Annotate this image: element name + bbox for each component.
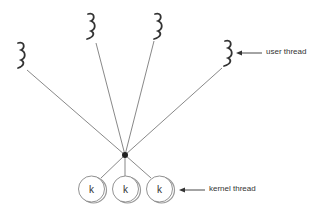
threading-diagram: k k k: [0, 0, 328, 217]
junction-dot: [122, 152, 128, 158]
connection-line-u4: [125, 68, 222, 155]
kernel-threads: k k k: [79, 176, 175, 203]
user-thread-connections: [27, 41, 222, 155]
kernel-thread-arrow-icon: [179, 188, 205, 193]
kernel-thread-label-text: kernel thread: [209, 184, 256, 193]
kernel-thread-k3: k: [147, 176, 175, 203]
user-thread-label: user thread: [266, 47, 306, 56]
kernel-thread-k1: k: [79, 176, 107, 203]
user-thread-squiggle-icon: [224, 41, 232, 66]
kernel-connections: [101, 155, 151, 178]
kernel-thread-k2: k: [113, 176, 141, 203]
connection-line-u3: [125, 41, 154, 155]
user-thread-squiggle-icon: [18, 43, 25, 68]
user-thread-arrow-icon: [236, 51, 262, 56]
user-thread-squiggle-icon: [87, 14, 95, 39]
connection-line-u2: [96, 43, 125, 155]
user-thread-squiggle-icon: [154, 14, 162, 39]
user-threads: [18, 14, 232, 68]
connection-line-u1: [27, 70, 125, 155]
